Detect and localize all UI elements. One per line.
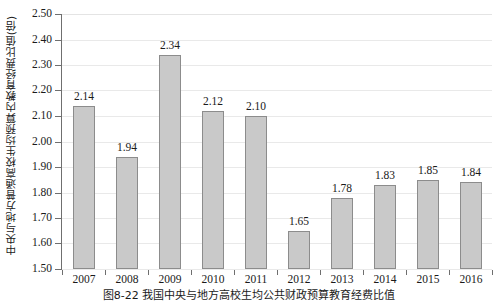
bar bbox=[460, 182, 482, 269]
y-axis-tick-label: 2.40 bbox=[12, 34, 52, 46]
y-axis-tick-label: 2.00 bbox=[12, 136, 52, 148]
bar-value-label: 2.10 bbox=[233, 101, 279, 113]
y-axis-tick bbox=[55, 243, 61, 244]
bar bbox=[159, 55, 181, 269]
y-axis-tick bbox=[55, 142, 61, 143]
bar-value-label: 1.85 bbox=[405, 165, 451, 177]
x-axis-tick-label: 2013 bbox=[320, 274, 364, 286]
x-axis-tick-label: 2008 bbox=[105, 274, 149, 286]
x-axis-tick-label: 2009 bbox=[148, 274, 192, 286]
gridline bbox=[62, 116, 492, 117]
bar bbox=[288, 231, 310, 269]
y-axis-tick bbox=[55, 65, 61, 66]
x-axis-tick-label: 2007 bbox=[62, 274, 106, 286]
y-axis-tick bbox=[55, 167, 61, 168]
y-axis-tick-label: 2.30 bbox=[12, 59, 52, 71]
bar bbox=[417, 180, 439, 269]
y-axis-tick bbox=[55, 193, 61, 194]
bar bbox=[374, 185, 396, 269]
x-axis-tick-label: 2010 bbox=[191, 274, 235, 286]
y-axis-tick-label: 1.60 bbox=[12, 237, 52, 249]
x-axis-tick-label: 2012 bbox=[277, 274, 321, 286]
bar-value-label: 2.34 bbox=[147, 40, 193, 52]
x-axis-tick-label: 2016 bbox=[449, 274, 493, 286]
y-axis-tick-label: 1.50 bbox=[12, 263, 52, 275]
gridline bbox=[62, 14, 492, 15]
y-axis-tick bbox=[55, 269, 61, 270]
bar-value-label: 1.84 bbox=[448, 167, 494, 179]
x-axis-tick-label: 2014 bbox=[363, 274, 407, 286]
bar-value-label: 1.83 bbox=[362, 170, 408, 182]
bar bbox=[116, 157, 138, 269]
y-axis-tick-label: 1.80 bbox=[12, 187, 52, 199]
bar-value-label: 2.12 bbox=[190, 96, 236, 108]
y-axis-tick bbox=[55, 40, 61, 41]
y-axis-tick bbox=[55, 218, 61, 219]
gridline bbox=[62, 65, 492, 66]
bar bbox=[202, 111, 224, 269]
bar-value-label: 1.94 bbox=[104, 142, 150, 154]
bar-value-label: 1.78 bbox=[319, 183, 365, 195]
y-axis-tick bbox=[55, 116, 61, 117]
figure-bar-chart: 中央与地方普通高校生均预算内教育经费比值(倍) 2.502.402.302.20… bbox=[0, 0, 498, 302]
x-axis-tick-label: 2011 bbox=[234, 274, 278, 286]
bar-value-label: 2.14 bbox=[61, 91, 107, 103]
gridline bbox=[62, 40, 492, 41]
y-axis-tick-label: 1.70 bbox=[12, 212, 52, 224]
x-axis-tick-label: 2015 bbox=[406, 274, 450, 286]
y-axis-tick-label: 2.20 bbox=[12, 84, 52, 96]
bar-value-label: 1.65 bbox=[276, 216, 322, 228]
y-axis-tick-label: 1.90 bbox=[12, 161, 52, 173]
y-axis-tick-label: 2.10 bbox=[12, 110, 52, 122]
bar bbox=[73, 106, 95, 269]
bar bbox=[245, 116, 267, 269]
bar bbox=[331, 198, 353, 269]
y-axis-tick-label: 2.50 bbox=[12, 8, 52, 20]
y-axis-tick bbox=[55, 14, 61, 15]
figure-caption: 图8-22 我国中央与地方高校生均公共财政预算教育经费比值 bbox=[0, 289, 498, 302]
gridline bbox=[62, 90, 492, 91]
